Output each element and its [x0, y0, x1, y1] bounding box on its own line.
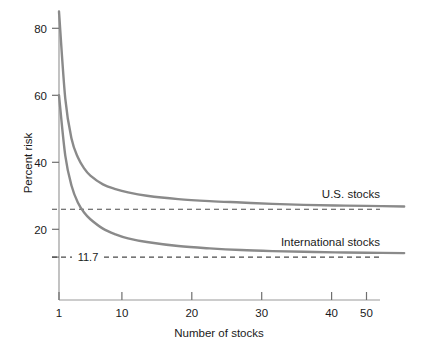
y-axis-ticks: [52, 28, 59, 257]
series-line-international-stocks: [59, 95, 404, 253]
risk-diversification-chart: 80 60 40 20 Percent risk 1 10 20 30 40 5…: [0, 0, 424, 344]
series-label-international-stocks: International stocks: [281, 236, 380, 248]
chart-canvas: 80 60 40 20 Percent risk 1 10 20 30 40 5…: [0, 0, 424, 344]
annotation-11-7: 11.7: [78, 251, 99, 263]
x-tick-label-10: 10: [116, 307, 129, 319]
y-tick-label-40: 40: [34, 157, 47, 169]
x-tick-label-1: 1: [56, 307, 62, 319]
y-axis-title: Percent risk: [22, 132, 34, 193]
x-tick-label-40: 40: [325, 307, 338, 319]
y-tick-label-80: 80: [34, 23, 47, 35]
x-tick-label-20: 20: [185, 307, 198, 319]
x-tick-label-30: 30: [255, 307, 268, 319]
x-tick-label-50: 50: [360, 307, 373, 319]
y-tick-label-20: 20: [34, 224, 47, 236]
y-tick-label-60: 60: [34, 90, 47, 102]
x-axis-ticks: [59, 292, 367, 300]
x-axis-title: Number of stocks: [174, 327, 264, 339]
series-line-us-stocks: [59, 12, 404, 207]
series-label-us-stocks: U.S. stocks: [322, 188, 380, 200]
